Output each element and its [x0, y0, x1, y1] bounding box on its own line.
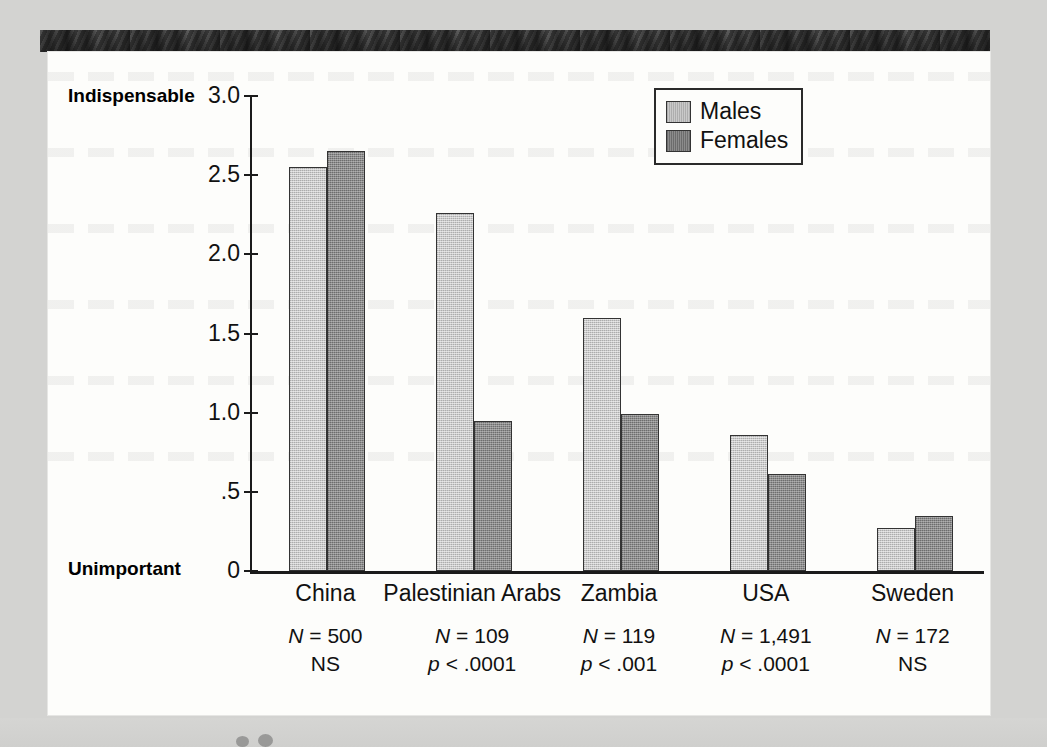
bar-chart: 0.51.01.52.02.53.0 Indispensable Unimpor… [48, 52, 990, 715]
bar-females [474, 421, 512, 571]
p-symbol: p [428, 652, 440, 675]
bar-group [436, 96, 512, 571]
y-axis-tick-label: 1.5 [174, 322, 240, 345]
page-background-bottom [0, 718, 1047, 747]
y-axis-tick-label: 2.5 [174, 163, 240, 186]
axis-label-unimportant: Unimportant [68, 558, 181, 580]
y-axis-tick [244, 333, 258, 335]
bar-females [768, 474, 806, 571]
page-speck [258, 734, 273, 747]
chart-legend: MalesFemales [654, 88, 803, 165]
n-symbol: N [583, 624, 598, 647]
p-symbol: p [722, 652, 734, 675]
legend-swatch-males [666, 101, 691, 123]
bar-group [289, 96, 365, 571]
page-speck [236, 736, 249, 747]
legend-item-males: Males [666, 97, 788, 126]
group-statistics-note: N = 172NS [819, 622, 1006, 677]
bar-males [877, 528, 915, 571]
figure-plate: 0.51.01.52.02.53.0 Indispensable Unimpor… [48, 52, 990, 715]
x-axis-category-label: Sweden [819, 580, 1006, 607]
n-symbol: N [435, 624, 450, 647]
bar-males [289, 167, 327, 571]
legend-item-females: Females [666, 126, 788, 155]
bar-group [877, 96, 953, 571]
legend-label: Females [700, 129, 788, 152]
n-symbol: N [876, 624, 891, 647]
y-axis-tick [244, 174, 258, 176]
y-axis-tick-label: .5 [174, 480, 240, 503]
axis-label-indispensable: Indispensable [68, 85, 195, 107]
bar-females [327, 151, 365, 571]
scan-artifact-strip [40, 30, 990, 52]
y-axis-tick-label: 1.0 [174, 401, 240, 424]
bar-males [436, 213, 474, 571]
y-axis-ticks: 0.51.01.52.02.53.0 [48, 52, 990, 715]
y-axis-tick [244, 253, 258, 255]
p-symbol: p [581, 652, 593, 675]
bar-group [583, 96, 659, 571]
y-axis-tick-label: 0 [174, 559, 240, 582]
legend-swatch-females [666, 130, 691, 152]
legend-label: Males [700, 100, 761, 123]
bar-males [730, 435, 768, 571]
y-axis-tick [244, 412, 258, 414]
bar-group [730, 96, 806, 571]
y-axis-tick-label: 2.0 [174, 242, 240, 265]
bar-females [621, 414, 659, 571]
sample-size-note: N = 172 [819, 622, 1006, 650]
bar-males [583, 318, 621, 571]
y-axis-tick [244, 570, 258, 572]
n-symbol: N [720, 624, 735, 647]
significance-note: NS [819, 650, 1006, 678]
bar-females [915, 516, 953, 571]
n-symbol: N [288, 624, 303, 647]
y-axis-tick [244, 95, 258, 97]
y-axis-tick [244, 491, 258, 493]
